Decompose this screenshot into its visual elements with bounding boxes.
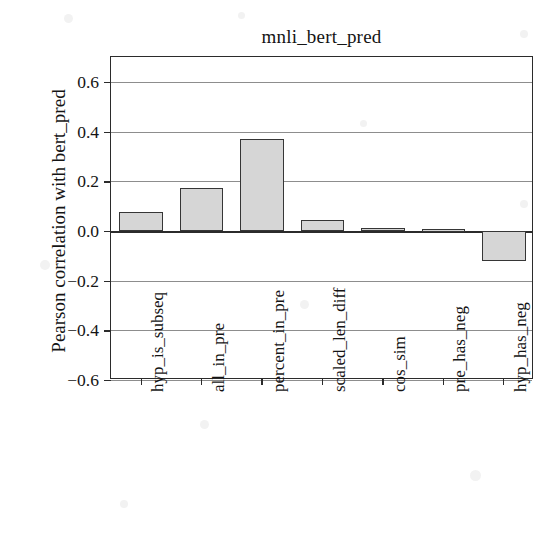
bar bbox=[482, 231, 526, 261]
gridline bbox=[111, 82, 532, 83]
x-tick-mark bbox=[322, 378, 323, 385]
y-tick-label: 0.4 bbox=[77, 121, 99, 142]
x-tick-mark bbox=[503, 378, 504, 385]
x-tick-label: hyp_is_subseq bbox=[148, 292, 168, 392]
x-tick-label: scaled_len_diff bbox=[330, 288, 350, 392]
x-tick-mark bbox=[443, 378, 444, 385]
x-tick-mark bbox=[382, 378, 383, 385]
x-tick-mark bbox=[261, 378, 262, 385]
y-tick-mark bbox=[104, 82, 111, 83]
figure-canvas: mnli_bert_pred Pearson correlation with … bbox=[0, 0, 557, 543]
scan-artifact bbox=[200, 420, 209, 429]
scan-artifact bbox=[64, 14, 73, 23]
x-tick-label: all_in_pre bbox=[209, 323, 229, 392]
y-tick-mark bbox=[104, 380, 111, 381]
y-tick-mark bbox=[104, 132, 111, 133]
y-tick-mark bbox=[104, 330, 111, 331]
scan-artifact bbox=[470, 470, 481, 481]
bar bbox=[301, 220, 345, 230]
x-tick-label: cos_sim bbox=[390, 336, 410, 392]
gridline bbox=[111, 132, 532, 133]
bar bbox=[240, 139, 284, 231]
gridline bbox=[111, 181, 532, 182]
y-tick-mark bbox=[104, 231, 111, 232]
y-tick-label: 0.2 bbox=[77, 171, 99, 192]
y-tick-mark bbox=[104, 281, 111, 282]
gridline bbox=[111, 281, 532, 282]
plot-area: 0.60.40.20.0−0.2−0.4−0.6 hyp_is_subseqal… bbox=[110, 56, 533, 379]
bar bbox=[180, 188, 224, 231]
x-tick-mark bbox=[141, 378, 142, 385]
chart-title: mnli_bert_pred bbox=[110, 26, 533, 48]
x-tick-label: hyp_has_neg bbox=[511, 302, 531, 392]
y-tick-label: −0.6 bbox=[67, 370, 99, 391]
y-tick-mark bbox=[104, 181, 111, 182]
x-tick-label: pre_has_neg bbox=[450, 306, 470, 392]
bar bbox=[119, 212, 163, 231]
y-tick-label: 0.0 bbox=[77, 220, 99, 241]
x-tick-label: percent_in_pre bbox=[269, 290, 289, 392]
x-tick-mark bbox=[201, 378, 202, 385]
bar bbox=[422, 229, 466, 232]
y-tick-label: −0.2 bbox=[67, 270, 99, 291]
y-tick-label: 0.6 bbox=[77, 71, 99, 92]
scan-artifact bbox=[120, 500, 128, 508]
y-tick-label: −0.4 bbox=[67, 320, 99, 341]
zero-line bbox=[111, 231, 532, 233]
scan-artifact bbox=[238, 12, 245, 19]
bar bbox=[361, 228, 405, 231]
